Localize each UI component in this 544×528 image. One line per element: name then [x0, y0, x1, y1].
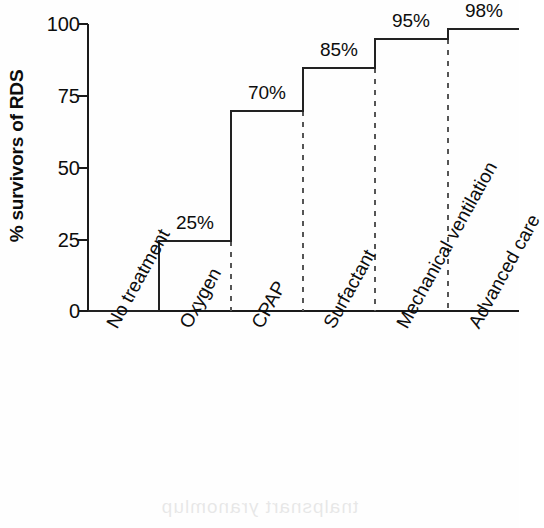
- value-label-cpap: 70%: [248, 83, 286, 102]
- value-label-mechanical-ventilation: 95%: [392, 11, 430, 30]
- y-axis-ticks: [78, 24, 88, 311]
- droplines: [231, 39, 448, 311]
- value-label-surfactant: 85%: [320, 40, 358, 59]
- value-label-oxygen: 25%: [176, 213, 214, 232]
- value-label-advanced-care: 98%: [465, 1, 503, 20]
- scan-bleed-artifact: tnalpsnart yranomlup: [0, 496, 519, 522]
